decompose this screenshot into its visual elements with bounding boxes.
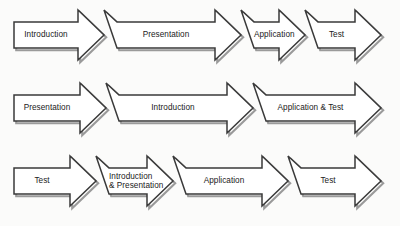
arrow-row-graphic [0, 0, 400, 226]
arrow-row: TestIntroduction & PresentationApplicati… [0, 0, 400, 226]
diagram-canvas: IntroductionPresentationApplicationTest … [0, 0, 400, 226]
arrow-segment [173, 156, 288, 206]
arrow-segment [96, 156, 173, 206]
